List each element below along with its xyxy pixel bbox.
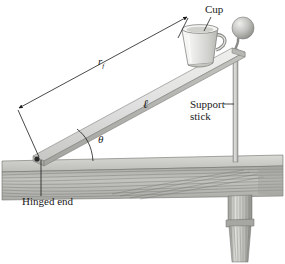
label-cup: Cup — [205, 4, 223, 16]
table-leg — [226, 195, 254, 262]
label-hinged-end: Hinged end — [22, 196, 73, 208]
label-radius-subscript: f — [102, 62, 104, 70]
label-radius-rf: rf — [98, 56, 104, 71]
knob-neck — [235, 38, 238, 50]
physics-diagram-svg — [0, 0, 285, 264]
label-support-stick-line2: stick — [190, 110, 211, 122]
label-support-stick-line1: Support — [190, 98, 225, 110]
label-support-stick: Supportstick — [190, 99, 225, 122]
dimension-extension-left — [18, 110, 39, 157]
support-stick — [232, 17, 254, 162]
support-stick-knob — [232, 17, 254, 39]
cup-interior — [187, 27, 214, 33]
support-stick-shaft — [233, 49, 238, 162]
label-length-ell: ℓ — [143, 98, 148, 111]
table-right-shading — [258, 166, 283, 196]
hinge-pivot — [34, 156, 39, 161]
label-angle-theta: θ — [98, 134, 103, 146]
diagram-canvas: Cup Supportstick Hinged end rf ℓ θ — [0, 0, 285, 264]
